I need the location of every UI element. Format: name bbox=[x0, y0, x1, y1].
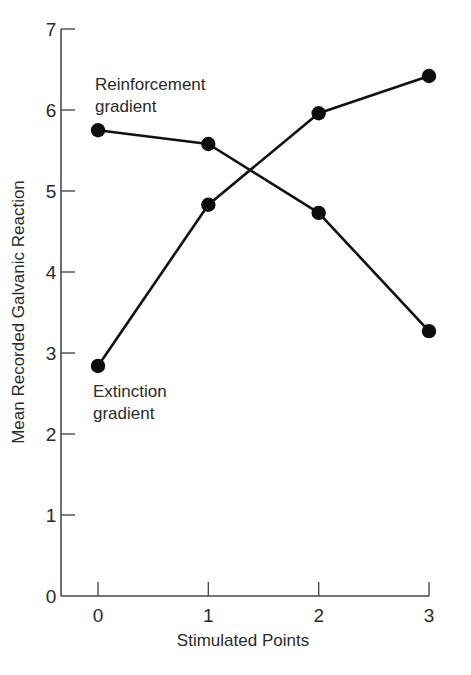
data-point-marker bbox=[201, 198, 215, 212]
reinforcement-gradient-label-line1: Reinforcement bbox=[95, 75, 206, 94]
x-tick-label: 2 bbox=[313, 605, 324, 626]
data-point-marker bbox=[422, 324, 436, 338]
y-tick-label: 2 bbox=[46, 424, 57, 445]
data-point-marker bbox=[91, 359, 105, 373]
x-tick-label: 0 bbox=[93, 605, 104, 626]
data-point-marker bbox=[201, 137, 215, 151]
reinforcement-gradient-label-line2: gradient bbox=[95, 97, 157, 116]
y-tick-label: 5 bbox=[46, 181, 57, 202]
x-tick-label: 1 bbox=[203, 605, 214, 626]
y-axis-title: Mean Recorded Galvanic Reaction bbox=[9, 180, 28, 444]
y-axis: 01234567 bbox=[46, 19, 75, 607]
y-tick-label: 3 bbox=[46, 343, 57, 364]
data-point-marker bbox=[311, 206, 325, 220]
y-tick-label: 6 bbox=[46, 100, 57, 121]
y-tick-label: 1 bbox=[46, 505, 57, 526]
extinction-gradient-label-line1: Extinction bbox=[93, 382, 167, 401]
data-point-marker bbox=[422, 69, 436, 83]
x-axis-title: Stimulated Points bbox=[177, 631, 309, 650]
y-tick-label: 7 bbox=[46, 19, 57, 40]
reinforcement-gradient-series bbox=[91, 123, 436, 338]
data-point-marker bbox=[311, 106, 325, 120]
extinction-gradient-line bbox=[98, 76, 429, 366]
x-axis: 0123 bbox=[61, 582, 434, 626]
y-tick-label: 0 bbox=[46, 586, 57, 607]
x-tick-label: 3 bbox=[424, 605, 435, 626]
data-point-marker bbox=[91, 123, 105, 137]
y-tick-label: 4 bbox=[46, 262, 57, 283]
line-chart: 01234567 0123 Reinforcement gradient Ext… bbox=[0, 0, 471, 675]
extinction-gradient-label-line2: gradient bbox=[93, 404, 155, 423]
